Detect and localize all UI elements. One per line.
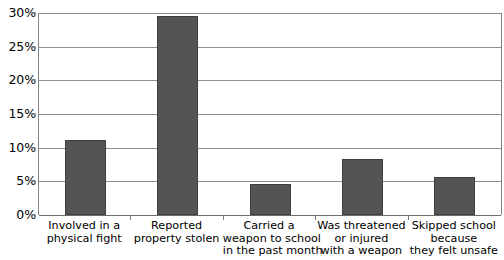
bars-group <box>39 13 501 215</box>
y-axis-tick-mark <box>31 114 36 115</box>
y-axis-tick-mark <box>31 181 36 182</box>
plot-area <box>38 13 502 215</box>
x-axis-category-label-line: Skipped school <box>408 220 500 233</box>
x-axis-category-label: Carried aweapon to schoolin the past mon… <box>223 220 315 258</box>
x-axis-category-label-line: Carried a <box>223 220 315 233</box>
bar <box>157 16 198 215</box>
x-axis-category-label-line: Was threatened <box>315 220 407 233</box>
bar <box>434 177 475 215</box>
x-axis-category-label: Involved in aphysical fight <box>38 220 130 245</box>
x-axis-labels: Involved in aphysical fightReportedprope… <box>38 220 500 260</box>
x-axis-category-label-line: Involved in a <box>38 220 130 233</box>
x-axis-category-label-line: they felt unsafe <box>408 245 500 258</box>
x-axis-category-label: Reportedproperty stolen <box>130 220 222 245</box>
y-axis-tick-mark <box>31 80 36 81</box>
x-axis-category-label-line: with a weapon <box>315 245 407 258</box>
y-axis-tick-mark <box>31 13 36 14</box>
y-axis: 0%5%10%15%20%25%30% <box>0 0 36 260</box>
bar <box>65 140 106 215</box>
x-axis-category-label-line: Reported <box>130 220 222 233</box>
y-axis-tick-mark <box>31 215 36 216</box>
x-axis-category-label-line: physical fight <box>38 233 130 246</box>
bar <box>342 159 383 215</box>
y-axis-tick-mark <box>31 46 36 47</box>
x-axis-category-label: Skipped schoolbecausethey felt unsafe <box>408 220 500 258</box>
bar-chart: 0%5%10%15%20%25%30% Involved in aphysica… <box>0 0 504 260</box>
y-axis-tick-mark <box>31 147 36 148</box>
x-axis-category-label: Was threatenedor injuredwith a weapon <box>315 220 407 258</box>
bar <box>250 184 291 215</box>
x-axis-category-label-line: in the past month <box>223 245 315 258</box>
x-axis-category-label-line: property stolen <box>130 233 222 246</box>
